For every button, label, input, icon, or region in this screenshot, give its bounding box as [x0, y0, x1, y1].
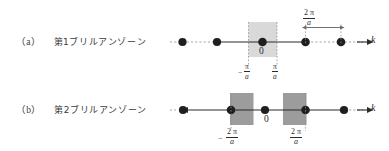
panel-a-title: 第1ブリルアンゾーン [54, 37, 147, 47]
edge-label-a-left-sign: − [238, 68, 243, 77]
lattice-point [261, 106, 269, 114]
span-label-2pi-over-a: 2 π a [303, 9, 315, 27]
panel-b-caption: （b） 第2ブリルアンゾーン [16, 102, 147, 116]
edge-label-b-left-sign: − [218, 134, 223, 143]
edge-numerator: 2 π [290, 128, 302, 137]
lattice-point [178, 38, 186, 46]
edge-numerator: π [244, 63, 250, 71]
edge-denominator: a [226, 137, 238, 147]
origin-label-a: 0 [259, 46, 264, 56]
edge-numerator: 2 π [226, 128, 238, 137]
edge-denominator: a [272, 71, 278, 80]
axis-label-k-b: k [371, 102, 375, 113]
span-numerator: 2 π [303, 9, 315, 18]
span-denominator: a [303, 18, 315, 28]
panel-b-marker: （b） [16, 105, 42, 115]
panel-a-graphic [170, 22, 367, 66]
edge-denominator: a [290, 137, 302, 147]
panel-b-title: 第2ブリルアンゾーン [54, 105, 147, 115]
edge-label-b-right: 2 π a [290, 128, 302, 146]
lattice-point [258, 38, 267, 47]
edge-label-b-left: 2 π a [226, 128, 238, 146]
brillouin-zone-figure [0, 0, 389, 151]
panel-a-caption: （a） 第1ブリルアンゾーン [16, 34, 146, 48]
panel-a-marker: （a） [16, 37, 41, 47]
lattice-point [340, 106, 348, 114]
edge-label-a-right: π a [272, 63, 278, 80]
lattice-point [213, 38, 221, 46]
edge-denominator: a [244, 71, 250, 80]
axis-label-k-a: k [371, 34, 375, 45]
lattice-point [179, 106, 187, 114]
panel-b-graphic [170, 93, 367, 131]
edge-label-a-left: π a [244, 63, 250, 80]
origin-label-b: 0 [264, 114, 269, 124]
edge-numerator: π [272, 63, 278, 71]
